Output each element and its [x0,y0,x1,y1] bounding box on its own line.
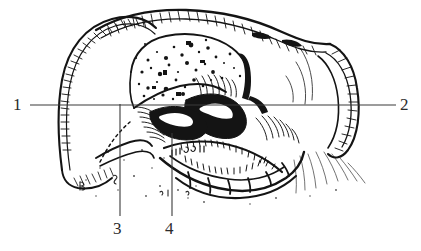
figure-container: 1 2 3 4 [0,0,421,251]
anatomical-drawing [0,0,421,251]
callout-label-3: 3 [113,220,122,237]
callout-label-2: 2 [400,96,409,113]
callout-label-4: 4 [165,220,174,237]
callout-label-1: 1 [13,96,22,113]
